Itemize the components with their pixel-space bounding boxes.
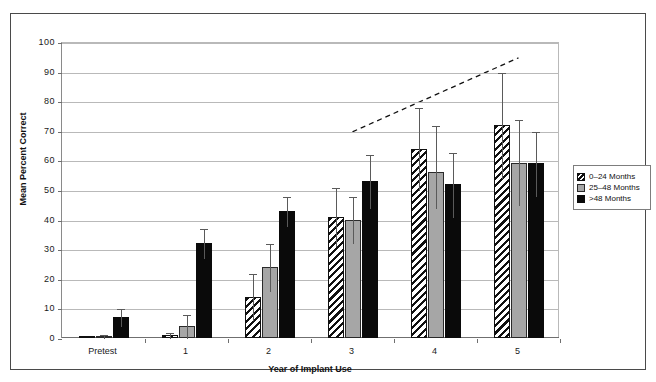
x-axis-tick-mark — [145, 339, 146, 343]
gridline — [62, 250, 559, 251]
x-axis-tick-mark — [477, 339, 478, 343]
gridline — [62, 132, 559, 133]
y-axis-tick-label: 0 — [29, 333, 55, 343]
x-axis-tick-mark — [311, 339, 312, 343]
error-bar — [336, 188, 337, 247]
error-bar — [353, 197, 354, 244]
legend-item-label: >48 Months — [589, 194, 631, 203]
y-axis-tick-label: 40 — [29, 215, 55, 225]
error-bar-cap — [498, 73, 506, 74]
y-axis-tick-mark — [58, 132, 62, 133]
error-bar-cap — [249, 274, 257, 275]
gridline — [62, 221, 559, 222]
x-axis-tick-label: 3 — [349, 346, 354, 356]
legend-swatch-icon — [577, 184, 585, 192]
y-axis-tick-label: 20 — [29, 274, 55, 284]
error-bar — [121, 309, 122, 327]
gridline — [62, 43, 559, 44]
error-bar-cap — [266, 244, 274, 245]
y-axis-tick-mark — [58, 102, 62, 103]
error-bar-cap — [166, 333, 174, 334]
error-bar-cap — [432, 126, 440, 127]
y-axis-tick-labels: 0102030405060708090100 — [25, 42, 55, 338]
y-axis-tick-mark — [58, 250, 62, 251]
error-bar-cap — [366, 155, 374, 156]
x-axis-tick-mark — [394, 339, 395, 343]
y-axis-tick-label: 60 — [29, 155, 55, 165]
chart-legend: 0–24 Months25–48 Months>48 Months — [573, 165, 651, 210]
y-axis-tick-mark — [58, 280, 62, 281]
y-axis-tick-label: 100 — [29, 37, 55, 47]
gridline — [62, 102, 559, 103]
error-bar-cap — [332, 188, 340, 189]
legend-item: 0–24 Months — [577, 172, 647, 181]
x-axis-tick-mark — [228, 339, 229, 343]
error-bar-cap — [532, 132, 540, 133]
y-axis-tick-label: 90 — [29, 67, 55, 77]
gridline — [62, 191, 559, 192]
error-bar-cap — [449, 153, 457, 154]
x-axis-tick-label: 1 — [183, 346, 188, 356]
y-axis-tick-label: 50 — [29, 185, 55, 195]
error-bar — [370, 155, 371, 208]
y-axis-tick-label: 30 — [29, 244, 55, 254]
x-axis-tick-label: 2 — [266, 346, 271, 356]
y-axis-tick-mark — [58, 309, 62, 310]
y-axis-tick-mark — [58, 221, 62, 222]
y-axis-tick-label: 80 — [29, 96, 55, 106]
error-bar — [204, 229, 205, 259]
legend-item-label: 25–48 Months — [589, 183, 640, 192]
error-bar — [436, 126, 437, 209]
y-axis-tick-mark — [58, 161, 62, 162]
y-axis-tick-label: 10 — [29, 303, 55, 313]
bar — [279, 211, 295, 338]
y-axis-tick-label: 70 — [29, 126, 55, 136]
error-bar-cap — [200, 229, 208, 230]
error-bar — [519, 120, 520, 206]
gridline — [62, 309, 559, 310]
x-axis-title: Year of Implant Use — [61, 364, 559, 374]
figure-frame: Mean Percent Correct 0102030405060708090… — [10, 13, 646, 370]
error-bar — [187, 315, 188, 339]
error-bar-cap — [415, 108, 423, 109]
error-bar-cap — [100, 335, 108, 336]
error-bar-cap — [183, 315, 191, 316]
y-axis-tick-mark — [58, 191, 62, 192]
error-bar-cap — [283, 197, 291, 198]
x-axis-baseline — [62, 337, 559, 338]
y-axis-tick-mark — [58, 73, 62, 74]
gridline — [62, 280, 559, 281]
error-bar-cap — [515, 120, 523, 121]
gridline — [62, 73, 559, 74]
x-axis-tick-label: 5 — [515, 346, 520, 356]
error-bar — [453, 153, 454, 218]
error-bar — [287, 197, 288, 227]
error-bar-cap — [349, 197, 357, 198]
error-bar — [270, 244, 271, 291]
legend-item-label: 0–24 Months — [589, 172, 635, 181]
error-bar — [502, 73, 503, 180]
bar — [79, 336, 95, 338]
plot-area — [61, 42, 559, 338]
legend-item: >48 Months — [577, 194, 647, 203]
error-bar — [419, 108, 420, 191]
x-axis-tick-mark — [560, 339, 561, 343]
legend-swatch-icon — [577, 173, 585, 181]
error-bar — [253, 274, 254, 321]
x-axis-tick-label: 4 — [432, 346, 437, 356]
error-bar-cap — [117, 309, 125, 310]
gridline — [62, 161, 559, 162]
y-axis-tick-mark — [58, 43, 62, 44]
x-axis-tick-label: Pretest — [88, 346, 117, 356]
legend-item: 25–48 Months — [577, 183, 647, 192]
error-bar — [536, 132, 537, 197]
y-axis-tick-mark — [58, 339, 62, 340]
legend-swatch-icon — [577, 195, 585, 203]
